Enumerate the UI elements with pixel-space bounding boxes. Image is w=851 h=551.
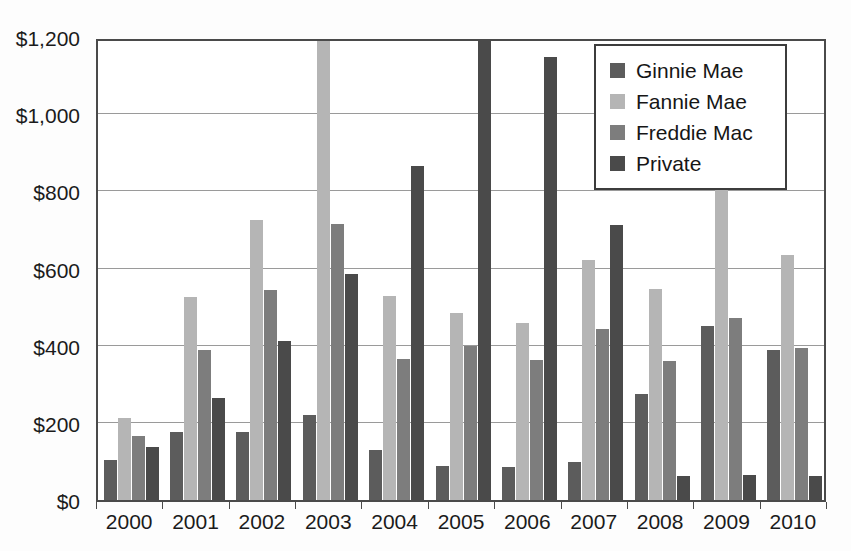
bar [649,289,662,500]
x-tick [826,502,827,509]
bar [715,187,728,500]
legend-item[interactable]: Fannie Mae [596,86,785,117]
y-tick-label: $0 [57,490,80,514]
bar-group [303,41,358,500]
bar [795,348,808,500]
bar [303,415,316,500]
x-axis: 2000200120022003200420052006200720082009… [96,508,826,548]
bar [132,436,145,500]
bar [663,361,676,500]
x-tick-label: 2010 [769,510,816,534]
bar [809,476,822,500]
bar-group [369,41,424,500]
bar [170,432,183,500]
y-tick-label: $1,000 [16,104,80,128]
legend-item[interactable]: Freddie Mac [596,117,785,148]
bar-chart: $0$200$400$600$800$1,000$1,200 200020012… [0,0,851,551]
bar [331,224,344,500]
bar [212,398,225,500]
bar [635,394,648,500]
legend-swatch-icon [610,94,625,109]
bar [345,274,358,500]
legend-swatch-icon [610,156,625,171]
y-tick-label: $800 [33,181,80,205]
bar [743,475,756,500]
x-tick-label: 2001 [172,510,219,534]
bar-group [436,41,491,500]
bar [436,466,449,500]
bar [767,350,780,500]
x-tick-label: 2007 [570,510,617,534]
bar [317,39,330,500]
bar [383,296,396,500]
x-tick-label: 2006 [504,510,551,534]
x-tick-label: 2000 [106,510,153,534]
legend-label: Fannie Mae [636,90,747,114]
bar [596,329,609,500]
bar-group [236,41,291,500]
bar [610,225,623,500]
y-tick-label: $1,200 [16,27,80,51]
x-tick-label: 2005 [438,510,485,534]
bar [582,260,595,500]
bar [781,255,794,500]
legend: Ginnie MaeFannie MaeFreddie MacPrivate [594,44,787,190]
x-tick-label: 2002 [239,510,286,534]
bar-group [170,41,225,500]
x-tick-label: 2009 [703,510,750,534]
bar [464,346,477,500]
bar [450,313,463,500]
legend-label: Ginnie Mae [636,59,743,83]
legend-swatch-icon [610,125,625,140]
bar [118,418,131,500]
bar [701,326,714,500]
bar [236,432,249,500]
bar-group [502,41,557,500]
legend-label: Private [636,152,701,176]
bar [184,297,197,500]
bar [278,341,291,500]
legend-label: Freddie Mac [636,121,753,145]
bar [502,467,515,500]
bar [677,476,690,500]
bar [411,166,424,500]
bar [264,290,277,500]
bar [146,447,159,500]
bar [568,462,581,500]
x-tick-label: 2004 [371,510,418,534]
x-tick-label: 2008 [637,510,684,534]
y-tick-label: $200 [33,413,80,437]
bar [397,359,410,500]
bar [478,39,491,500]
legend-swatch-icon [610,63,625,78]
bar [544,57,557,500]
bar [104,460,117,501]
bar [369,450,382,500]
bar-group [104,41,159,500]
y-tick-label: $400 [33,336,80,360]
y-axis: $0$200$400$600$800$1,000$1,200 [0,0,88,551]
y-tick-label: $600 [33,259,80,283]
bar [516,323,529,500]
legend-item[interactable]: Ginnie Mae [596,55,785,86]
x-tick-label: 2003 [305,510,352,534]
bar [198,350,211,500]
bar [729,318,742,500]
bar [530,360,543,500]
bar [250,220,263,500]
legend-item[interactable]: Private [596,148,785,179]
